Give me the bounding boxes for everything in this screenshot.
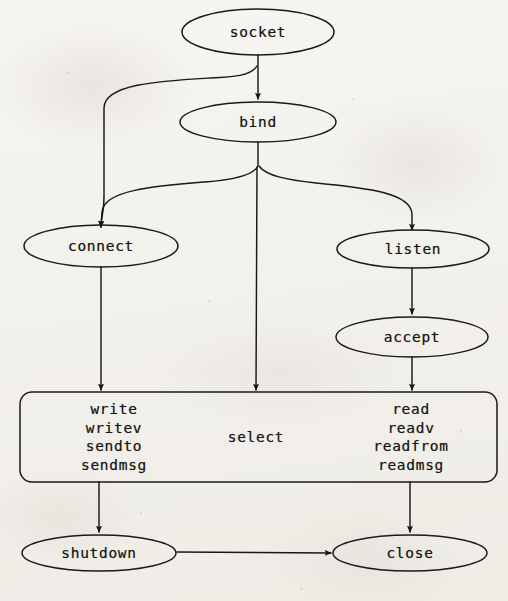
diagram-vector-layer (0, 0, 508, 601)
io-box-write-column: write writev sendto sendmsg (81, 400, 147, 474)
node-label-shutdown: shutdown (61, 546, 136, 561)
node-label-accept: accept (384, 330, 441, 345)
io-box-read-column: read readv readfrom readmsg (373, 400, 448, 474)
edge-socket-to-connect (101, 66, 257, 227)
node-label-bind: bind (239, 115, 277, 130)
io-box-select-column: select (228, 428, 285, 447)
node-label-socket: socket (230, 25, 287, 40)
edge-bind-to-listen (259, 166, 412, 230)
socket-api-flow-diagram: socket bind connect listen accept shutdo… (0, 0, 508, 601)
node-label-connect: connect (68, 239, 134, 254)
edge-shutdown-to-close (177, 552, 331, 553)
edge-bind-to-connect (101, 142, 258, 227)
node-label-listen: listen (385, 242, 442, 257)
node-label-close: close (386, 546, 433, 561)
edge-bind-to-select (256, 167, 257, 390)
